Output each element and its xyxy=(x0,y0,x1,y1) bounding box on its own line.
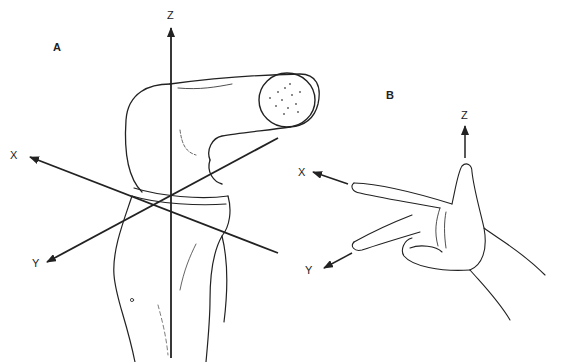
femur-drawing xyxy=(126,73,320,192)
diagram-drawing xyxy=(0,0,563,362)
x-axis-b xyxy=(313,172,348,184)
y-label-b: Y xyxy=(305,265,312,276)
x-label-b: X xyxy=(298,167,305,178)
panel-label-b: B xyxy=(386,90,394,101)
z-label-a: Z xyxy=(167,10,174,21)
y-label-a: Y xyxy=(32,258,39,269)
axes-b xyxy=(313,126,465,268)
z-label-b: Z xyxy=(461,110,468,121)
diagram-canvas: A Z X Y B Z X Y xyxy=(0,0,563,362)
bone-texture xyxy=(269,83,301,115)
y-axis-b xyxy=(324,253,352,268)
panel-label-a: A xyxy=(53,42,61,53)
hand-drawing xyxy=(352,164,545,320)
y-axis-a xyxy=(47,138,278,262)
x-label-a: X xyxy=(10,150,17,161)
